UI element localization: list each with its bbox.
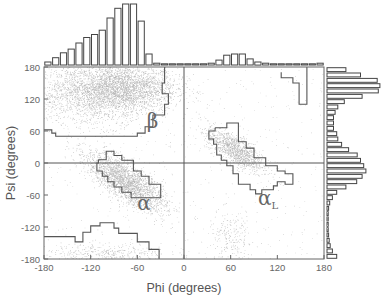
- region-label: αL: [258, 186, 279, 211]
- y-tick-label: 0: [35, 158, 40, 169]
- psi-bin: [327, 222, 328, 226]
- phi-bin: [53, 58, 59, 65]
- phi-bin: [84, 38, 90, 65]
- phi-bin: [317, 63, 323, 65]
- psi-bin: [327, 68, 346, 72]
- phi-bin: [138, 21, 144, 65]
- phi-bin: [146, 54, 152, 65]
- phi-bin: [294, 64, 300, 65]
- psi-bin: [327, 116, 334, 120]
- psi-bin: [327, 105, 338, 109]
- x-tick-label: -60: [130, 262, 144, 273]
- y-tick-label: 120: [24, 94, 40, 105]
- phi-bin: [99, 30, 105, 65]
- x-tick-label: -120: [81, 262, 100, 273]
- phi-bin: [216, 60, 222, 65]
- psi-bin: [327, 84, 380, 88]
- psi-bin: [327, 121, 334, 125]
- y-tick-label: -120: [21, 222, 40, 233]
- phi-bin: [193, 64, 199, 65]
- phi-bin: [60, 53, 66, 65]
- phi-histogram: [45, 4, 323, 65]
- y-tick-label: -180: [21, 254, 40, 265]
- phi-bin: [278, 64, 284, 65]
- phi-bin: [169, 64, 175, 65]
- psi-bin: [327, 180, 357, 184]
- psi-bin: [327, 201, 330, 205]
- phi-bin: [208, 63, 214, 65]
- phi-bin: [162, 64, 168, 65]
- x-axis-label: Phi (degrees): [146, 281, 221, 295]
- phi-bin: [185, 64, 191, 65]
- y-axis-label: Psi (degrees): [4, 126, 18, 200]
- psi-bin: [327, 212, 328, 216]
- phi-bin: [123, 4, 129, 65]
- psi-bin: [327, 110, 335, 114]
- psi-bin: [327, 244, 330, 248]
- psi-bin: [327, 78, 377, 82]
- x-tick-label: 0: [181, 262, 186, 273]
- psi-bin: [327, 73, 361, 77]
- phi-bin: [270, 64, 276, 65]
- psi-histogram: [327, 68, 380, 259]
- psi-bin: [327, 126, 334, 130]
- phi-bin: [255, 62, 261, 65]
- psi-bin: [327, 185, 346, 189]
- x-tick-label: 120: [269, 262, 285, 273]
- psi-bin: [327, 196, 332, 200]
- y-tick-label: 60: [29, 126, 40, 137]
- phi-bin: [130, 4, 136, 65]
- y-tick-label: 180: [24, 62, 40, 73]
- psi-bin: [327, 158, 361, 162]
- x-tick-label: 180: [316, 262, 332, 273]
- y-tick-label: -60: [26, 190, 40, 201]
- phi-bin: [68, 49, 74, 65]
- phi-bin: [232, 54, 238, 65]
- psi-bin: [327, 164, 364, 168]
- psi-bin: [327, 132, 337, 136]
- psi-bin: [327, 254, 337, 258]
- phi-bin: [154, 63, 160, 65]
- psi-bin: [327, 228, 328, 232]
- phi-bin: [286, 64, 292, 65]
- phi-bin: [224, 55, 230, 65]
- phi-bin: [309, 64, 315, 65]
- phi-bin: [177, 64, 183, 65]
- psi-bin: [327, 148, 349, 152]
- phi-bin: [92, 35, 98, 66]
- psi-bin: [327, 190, 337, 194]
- phi-bin: [107, 18, 113, 65]
- psi-bin: [327, 137, 338, 141]
- psi-bin: [327, 238, 329, 242]
- region-label: α: [137, 191, 151, 215]
- phi-bin: [302, 64, 308, 65]
- phi-bin: [200, 64, 206, 65]
- psi-bin: [327, 217, 328, 221]
- phi-bin: [45, 62, 51, 65]
- outline-topright: [281, 67, 307, 104]
- phi-bin: [263, 63, 269, 65]
- x-tick-label: 60: [225, 262, 236, 273]
- psi-bin: [327, 206, 329, 210]
- psi-bin: [327, 89, 378, 93]
- phi-bin: [76, 43, 82, 65]
- psi-bin: [327, 153, 357, 157]
- psi-bin: [327, 174, 362, 178]
- psi-bin: [327, 142, 342, 146]
- phi-bin: [247, 59, 253, 65]
- psi-bin: [327, 94, 362, 98]
- phi-bin: [115, 8, 121, 65]
- phi-bin: [239, 54, 245, 65]
- psi-bin: [327, 249, 332, 253]
- psi-bin: [327, 169, 366, 173]
- ramachandran-chart: -180-120-60060120180 -180-120-6006012018…: [0, 0, 386, 296]
- psi-bin: [327, 100, 344, 104]
- region-label: β: [147, 109, 159, 133]
- psi-bin: [327, 233, 329, 237]
